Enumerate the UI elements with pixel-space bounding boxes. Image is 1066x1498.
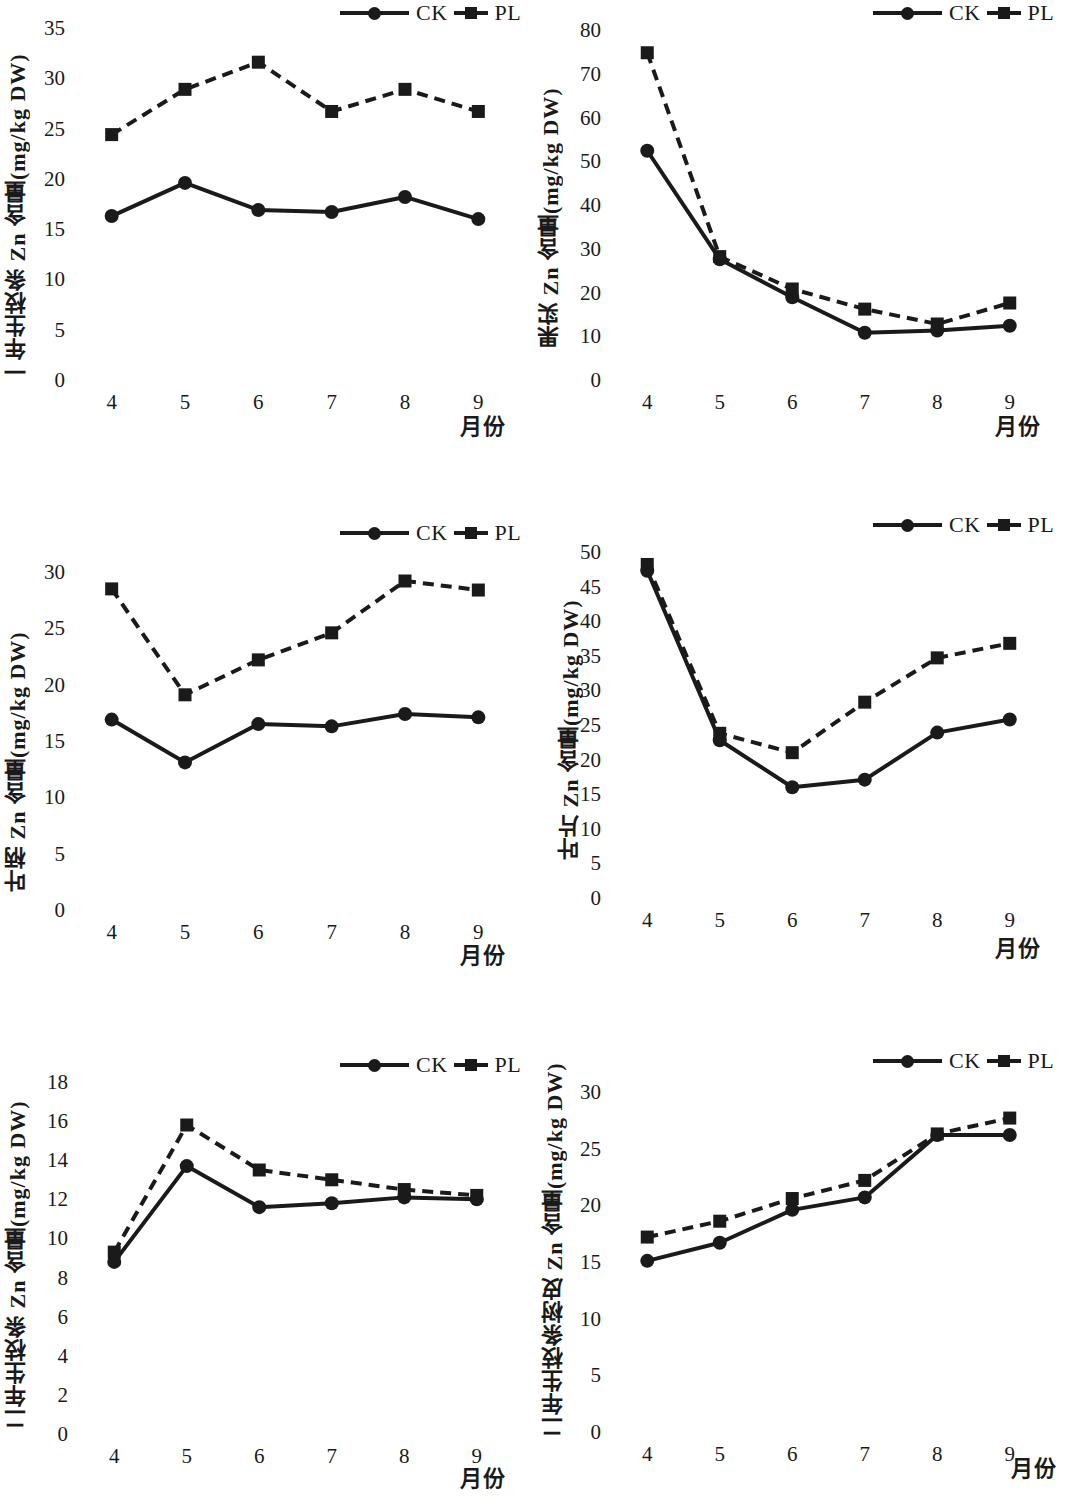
y-axis-title-two-year-shoot: 二年生枝条 Zn 含量(mg/kg DW)	[2, 1040, 36, 1490]
y-tick-label: 15	[27, 731, 65, 752]
y-tick-label: 30	[563, 1082, 601, 1103]
y-tick-label: 30	[563, 680, 601, 701]
y-tick-label: 20	[563, 1195, 601, 1216]
y-tick-label: 0	[563, 888, 601, 909]
x-tick-label: 5	[715, 392, 726, 413]
y-tick-label: 0	[563, 1422, 601, 1443]
legend-pl-dash-icon-2	[1009, 11, 1021, 15]
y-tick-label: 20	[563, 749, 601, 770]
y-tick-label: 5	[563, 853, 601, 874]
figure-grid: CK PL 一年生枝条 Zn 含量(mg/kg DW) 051015202530…	[0, 0, 1066, 1498]
x-axis-title-two-year-shoot: 月份	[460, 1460, 506, 1492]
plot-area-leaf: 05101520253035404550456789	[611, 552, 1046, 898]
x-axis-title-fruit: 月份	[995, 408, 1041, 440]
x-tick-label: 4	[106, 922, 117, 943]
x-tick-label: 6	[787, 392, 798, 413]
y-tick-label: 50	[563, 151, 601, 172]
legend-ck-line-icon	[340, 11, 370, 15]
x-tick-label: 5	[180, 392, 191, 413]
y-tick-label: 20	[563, 282, 601, 303]
y-tick-label: 4	[30, 1345, 68, 1366]
y-tick-label: 0	[27, 370, 65, 391]
x-tick-label: 4	[642, 910, 653, 931]
x-tick-label: 6	[787, 910, 798, 931]
plot-area-petiole: 051015202530456789	[75, 572, 515, 910]
legend-pl-label: PL	[488, 522, 528, 544]
chart-panel-leaf: CK PL 叶片 Zn 含量(mg/kg DW) 051015202530354…	[533, 490, 1066, 990]
legend-ck-label: CK	[942, 1050, 987, 1072]
x-tick-label: 8	[399, 1446, 410, 1467]
x-axis-title-leaf: 月份	[995, 930, 1041, 962]
legend-ck-label: CK	[409, 1054, 454, 1076]
legend-two-year-shoot-bark: CK PL	[873, 1048, 1060, 1074]
y-tick-label: 0	[563, 370, 601, 391]
x-tick-label: 6	[253, 922, 264, 943]
x-tick-label: 9	[1005, 910, 1016, 931]
legend-leaf: CK PL	[873, 512, 1060, 538]
y-tick-label: 15	[27, 219, 65, 240]
plot-area-two-year-shoot-bark: 051015202530456789	[611, 1092, 1046, 1432]
legend-ck-label: CK	[942, 2, 987, 24]
legend-pl-label: PL	[1021, 514, 1061, 536]
y-tick-label: 25	[27, 118, 65, 139]
legend-fruit: CK PL	[873, 0, 1060, 26]
x-tick-label: 7	[326, 392, 337, 413]
y-tick-label: 15	[563, 1252, 601, 1273]
x-tick-label: 5	[715, 910, 726, 931]
y-tick-label: 5	[27, 843, 65, 864]
legend-ck-line-icon	[873, 523, 903, 527]
legend-ck-line-icon-2	[379, 11, 409, 15]
legend-petiole: CK PL	[340, 520, 527, 546]
legend-pl-dash-icon-2	[1009, 523, 1021, 527]
y-tick-label: 0	[30, 1424, 68, 1445]
y-tick-label: 30	[563, 238, 601, 259]
y-tick-label: 10	[563, 1308, 601, 1329]
legend-pl-label: PL	[488, 1054, 528, 1076]
y-tick-label: 50	[563, 542, 601, 563]
y-tick-label: 10	[30, 1228, 68, 1249]
legend-ck-line-icon	[340, 531, 370, 535]
plot-area-fruit: 01020304050607080456789	[611, 30, 1046, 380]
legend-pl-label: PL	[1021, 2, 1061, 24]
x-tick-label: 8	[932, 910, 943, 931]
legend-one-year-shoot: CK PL	[340, 0, 527, 26]
y-tick-label: 80	[563, 20, 601, 41]
chart-panel-one-year-shoot: CK PL 一年生枝条 Zn 含量(mg/kg DW) 051015202530…	[0, 0, 533, 470]
y-tick-label: 30	[27, 68, 65, 89]
legend-ck-line-icon-2	[912, 1059, 942, 1063]
y-tick-label: 12	[30, 1189, 68, 1210]
y-tick-label: 15	[563, 784, 601, 805]
x-tick-label: 8	[932, 1444, 943, 1465]
y-tick-label: 16	[30, 1111, 68, 1132]
chart-panel-two-year-shoot-bark: CK PL 二年生枝条树皮 Zn 含量(mg/kg DW) 0510152025…	[533, 1010, 1066, 1498]
x-tick-label: 8	[400, 392, 411, 413]
x-tick-label: 4	[642, 392, 653, 413]
legend-ck-label: CK	[942, 514, 987, 536]
y-tick-label: 10	[563, 326, 601, 347]
legend-pl-dash-icon-2	[1009, 1059, 1021, 1063]
legend-pl-label: PL	[1021, 1050, 1061, 1072]
y-tick-label: 0	[27, 900, 65, 921]
y-tick-label: 25	[563, 715, 601, 736]
x-tick-label: 6	[254, 1446, 265, 1467]
chart-panel-fruit: CK PL 果实 Zn 含量(mg/kg DW) 010203040506070…	[533, 0, 1066, 470]
x-tick-label: 6	[253, 392, 264, 413]
legend-ck-line-icon	[873, 1059, 903, 1063]
x-tick-label: 7	[860, 1444, 871, 1465]
x-tick-label: 4	[109, 1446, 120, 1467]
legend-ck-line-icon-2	[379, 1063, 409, 1067]
x-tick-label: 7	[326, 922, 337, 943]
legend-ck-label: CK	[409, 2, 454, 24]
y-tick-label: 20	[27, 674, 65, 695]
legend-ck-line-icon	[873, 11, 903, 15]
x-tick-label: 6	[787, 1444, 798, 1465]
y-tick-label: 6	[30, 1306, 68, 1327]
legend-pl-dash-icon-2	[476, 11, 488, 15]
y-tick-label: 2	[30, 1384, 68, 1405]
legend-pl-dash-icon-2	[476, 531, 488, 535]
x-tick-label: 7	[860, 910, 871, 931]
y-tick-label: 35	[563, 645, 601, 666]
legend-ck-line-icon-2	[912, 11, 942, 15]
legend-ck-line-icon-2	[912, 523, 942, 527]
legend-ck-line-icon-2	[379, 531, 409, 535]
